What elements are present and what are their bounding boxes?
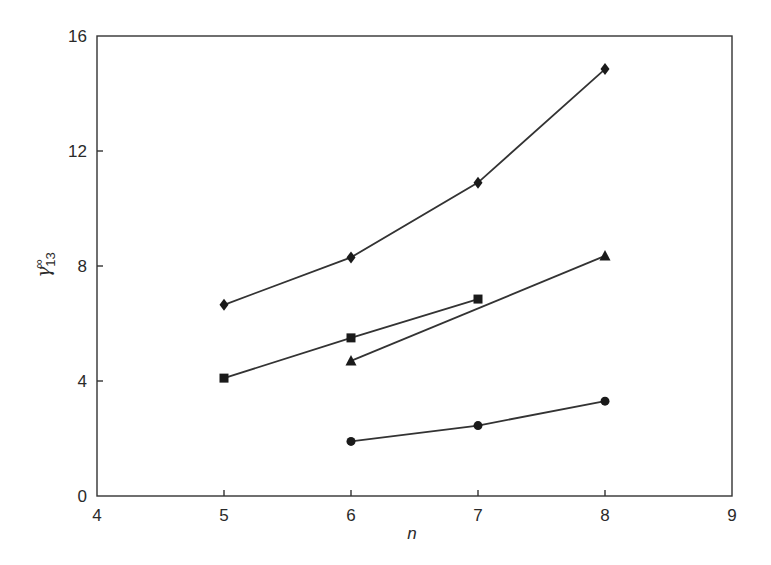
- diamond-marker-icon: [347, 251, 356, 263]
- y-axis-label: γ13∞: [31, 252, 58, 277]
- x-tick-label: 6: [346, 506, 355, 525]
- square-marker-icon: [220, 374, 229, 383]
- y-tick-label: 8: [78, 257, 87, 276]
- x-tick-label: 9: [727, 506, 736, 525]
- x-tick-label: 7: [473, 506, 482, 525]
- y-tick-label: 16: [68, 27, 87, 46]
- triangle-marker-icon: [600, 250, 611, 261]
- diamond-series-line: [224, 69, 605, 305]
- circle-marker-icon: [601, 397, 610, 406]
- y-tick-label: 4: [78, 372, 87, 391]
- diamond-marker-icon: [220, 299, 229, 311]
- circle-marker-icon: [474, 421, 483, 430]
- x-tick-label: 8: [600, 506, 609, 525]
- triangle-series: [346, 250, 611, 365]
- y-axis-ticks: 0481216: [68, 27, 103, 506]
- square-series: [220, 295, 483, 383]
- square-marker-icon: [474, 295, 483, 304]
- x-axis-label: n: [407, 524, 416, 543]
- y-axis-label-superscript: ∞: [31, 259, 46, 268]
- x-tick-label: 5: [219, 506, 228, 525]
- circle-series: [347, 397, 610, 446]
- plot-frame: [97, 36, 732, 496]
- y-tick-label: 12: [68, 142, 87, 161]
- svg-text:γ13∞: γ13∞: [31, 252, 58, 277]
- x-tick-label: 4: [92, 506, 101, 525]
- diamond-series: [220, 63, 610, 311]
- plot-border: [97, 36, 732, 496]
- square-marker-icon: [347, 333, 356, 342]
- diamond-marker-icon: [474, 177, 483, 189]
- y-tick-label: 0: [78, 487, 87, 506]
- line-chart: 456789 0481216 n γ13∞: [0, 0, 771, 565]
- circle-marker-icon: [347, 437, 356, 446]
- triangle-series-line: [351, 256, 605, 361]
- x-axis-ticks: 456789: [92, 490, 736, 525]
- diamond-marker-icon: [601, 63, 610, 75]
- series-layer: [220, 63, 611, 446]
